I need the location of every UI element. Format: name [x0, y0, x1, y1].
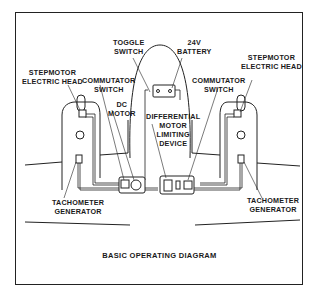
dc-motor [131, 180, 141, 190]
diagram-caption: BASIC OPERATING DIAGRAM [0, 251, 319, 260]
left-top-knob [77, 95, 85, 111]
commutator-left [121, 180, 129, 188]
stepmotor-left-label: STEPMOTORELECTRIC HEAD [22, 68, 83, 86]
right-wheel-hub [237, 131, 245, 139]
limiting-device [164, 180, 172, 191]
tacho-right [238, 155, 244, 163]
stepmotor-right-label: STEPMOTORELECTRIC HEAD [241, 53, 302, 71]
commutator-right [184, 181, 192, 189]
tacho-right-label: TACHOMETERGENERATOR [247, 196, 299, 214]
differential-label: DIFFERENTIALMOTORLIMITINGDEVICE [146, 112, 200, 148]
stepmotor-right [234, 110, 241, 117]
tacho-left-label: TACHOMETERGENERATOR [52, 198, 104, 216]
commutator-right-label: COMMUTATORSWITCH [192, 76, 246, 94]
battery-label: 24VBATTERY [177, 38, 212, 56]
stepmotor-left [79, 110, 86, 117]
dc-motor-label: DCMOTOR [108, 100, 136, 118]
tacho-left [76, 155, 82, 163]
commutator-left-label: COMMUTATORSWITCH [82, 76, 136, 94]
toggle-switch-label: TOGGLESWITCH [113, 38, 144, 56]
left-wheel-hub [76, 131, 84, 139]
